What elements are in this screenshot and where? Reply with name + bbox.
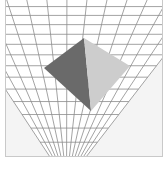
- 3d-viewport[interactable]: [0, 0, 168, 169]
- scene-canvas[interactable]: [0, 0, 168, 169]
